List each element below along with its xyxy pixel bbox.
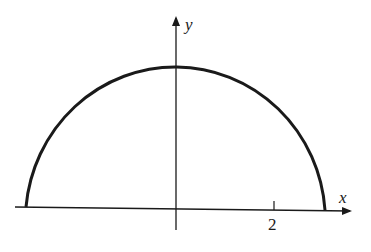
semicircle-diagram: 2 x y xyxy=(0,0,371,252)
x-tick-label-2: 2 xyxy=(268,215,277,234)
x-axis xyxy=(15,207,350,211)
y-axis-label: y xyxy=(183,15,193,34)
x-axis-label: x xyxy=(338,188,347,207)
